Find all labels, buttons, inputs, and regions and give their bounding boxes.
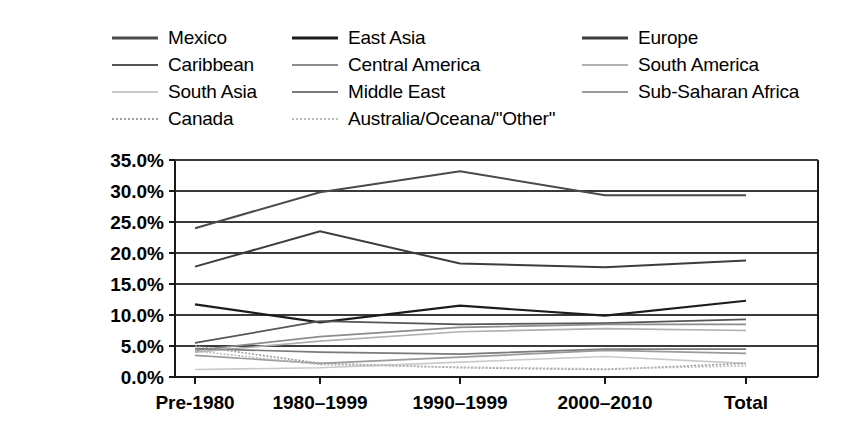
legend-item-europe[interactable]: Europe: [582, 24, 830, 51]
legend-swatch-icon: [112, 59, 158, 71]
series-line-east-asia: [195, 301, 746, 323]
x-axis-ticks: [195, 377, 746, 384]
legend-label: Australia/Oceana/"Other": [348, 109, 555, 128]
chart-legend: Mexico East Asia Europe Caribbean Centra…: [112, 24, 830, 136]
legend-item-south-asia[interactable]: South Asia: [112, 78, 292, 105]
y-axis-tick-label: 20.0%: [110, 243, 164, 264]
legend-swatch-icon: [112, 86, 158, 98]
plot-area: 0.0%5.0%10.0%15.0%20.0%25.0%30.0%35.0%: [0, 148, 842, 398]
y-axis-tick-label: 15.0%: [110, 274, 164, 295]
y-axis-tick-label: 10.0%: [110, 305, 164, 326]
gridlines: [169, 160, 818, 377]
legend-label: East Asia: [348, 28, 425, 47]
y-axis-tick-label: 35.0%: [110, 150, 164, 171]
legend-swatch-icon: [112, 113, 158, 125]
legend-label: Europe: [638, 28, 698, 47]
legend-label: South Asia: [168, 82, 257, 101]
legend-item-sub-saharan-africa[interactable]: Sub-Saharan Africa: [582, 78, 830, 105]
legend-label: Central America: [348, 55, 480, 74]
x-axis-tick-label: Pre-1980: [155, 392, 234, 414]
legend-item-middle-east[interactable]: Middle East: [292, 78, 582, 105]
line-chart: Mexico East Asia Europe Caribbean Centra…: [0, 0, 842, 437]
legend-item-caribbean[interactable]: Caribbean: [112, 51, 292, 78]
y-axis-tick-label: 0.0%: [121, 367, 164, 388]
x-axis-tick-label: 2000–2010: [557, 392, 652, 414]
legend-label: Canada: [168, 109, 233, 128]
legend-swatch-icon: [292, 32, 338, 44]
legend-item-south-america[interactable]: South America: [582, 51, 830, 78]
legend-item-mexico[interactable]: Mexico: [112, 24, 292, 51]
legend-swatch-icon: [112, 32, 158, 44]
x-axis-tick-label: 1990–1999: [412, 392, 507, 414]
legend-row: Canada Australia/Oceana/"Other": [112, 105, 830, 132]
y-axis-tick-label: 30.0%: [110, 181, 164, 202]
legend-row: South Asia Middle East Sub-Saharan Afric…: [112, 78, 830, 105]
legend-label: Mexico: [168, 28, 227, 47]
plot-svg: 0.0%5.0%10.0%15.0%20.0%25.0%30.0%35.0%: [0, 148, 842, 398]
legend-label: Sub-Saharan Africa: [638, 82, 799, 101]
legend-label: South America: [638, 55, 759, 74]
legend-label: Middle East: [348, 82, 445, 101]
series-line-europe: [195, 231, 746, 267]
legend-swatch-icon: [292, 59, 338, 71]
series-lines: [195, 171, 746, 369]
legend-swatch-icon: [582, 59, 628, 71]
legend-item-east-asia[interactable]: East Asia: [292, 24, 582, 51]
legend-row: Caribbean Central America South America: [112, 51, 830, 78]
plot-frame: [175, 160, 818, 377]
x-axis-tick-label: 1980–1999: [272, 392, 367, 414]
x-axis-tick-label: Total: [724, 392, 768, 414]
x-axis-labels: Pre-19801980–19991990–19992000–2010Total: [0, 392, 842, 424]
legend-row: Mexico East Asia Europe: [112, 24, 830, 51]
y-axis-labels: 0.0%5.0%10.0%15.0%20.0%25.0%30.0%35.0%: [110, 150, 164, 388]
legend-swatch-icon: [582, 86, 628, 98]
legend-swatch-icon: [292, 113, 338, 125]
legend-swatch-icon: [292, 86, 338, 98]
y-axis-tick-label: 5.0%: [121, 336, 164, 357]
legend-swatch-icon: [582, 32, 628, 44]
legend-item-canada[interactable]: Canada: [112, 105, 292, 132]
y-axis-tick-label: 25.0%: [110, 212, 164, 233]
series-line-mexico: [195, 171, 746, 228]
legend-label: Caribbean: [168, 55, 254, 74]
legend-item-spacer: [582, 105, 830, 132]
legend-item-central-america[interactable]: Central America: [292, 51, 582, 78]
legend-item-australia-oceana-other[interactable]: Australia/Oceana/"Other": [292, 105, 582, 132]
